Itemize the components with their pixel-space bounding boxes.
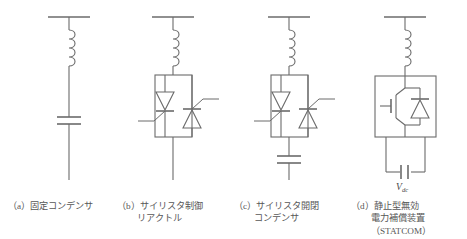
caption-d-line-2: 電力補償装置 [351, 212, 431, 224]
caption-c-line-1: （c）サイリスタ開閉 [234, 200, 319, 212]
caption-d-line-1: （d）静止型無効 [351, 200, 431, 212]
dc-voltage-subscript: dc [402, 186, 408, 193]
dc-voltage-symbol: V [396, 181, 402, 192]
figure-root: Vdc （a）固定コンデンサ （b）サイリスタ制御 リアクトル （c）サイリスタ… [0, 0, 467, 239]
caption-b-line-2: リアクトル [117, 212, 203, 224]
caption-d-line-3: （STATCOM） [351, 225, 431, 237]
caption-layer: Vdc （a）固定コンデンサ （b）サイリスタ制御 リアクトル （c）サイリスタ… [0, 0, 467, 239]
caption-panel-c: （c）サイリスタ開閉 コンデンサ [234, 200, 319, 225]
caption-panel-b: （b）サイリスタ制御 リアクトル [117, 200, 203, 225]
caption-panel-a: （a）固定コンデンサ [8, 200, 93, 212]
caption-panel-d: （d）静止型無効 電力補償装置 （STATCOM） [351, 200, 431, 237]
caption-a-line-1: （a）固定コンデンサ [8, 200, 93, 212]
caption-c-line-2: コンデンサ [234, 212, 319, 224]
dc-voltage-label: Vdc [396, 181, 408, 192]
caption-b-line-1: （b）サイリスタ制御 [117, 200, 203, 212]
